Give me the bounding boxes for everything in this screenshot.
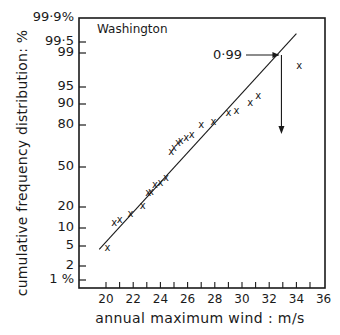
svg-text:x: x	[210, 116, 216, 127]
x-tick-label: 30	[230, 292, 254, 306]
x-tick-label: 20	[94, 292, 118, 306]
annotation-arrows	[246, 52, 284, 134]
y-tick-label: 95	[24, 78, 74, 93]
x-tick-label: 22	[121, 292, 145, 306]
x-tick-label: 28	[203, 292, 227, 306]
svg-text:x: x	[247, 97, 253, 108]
svg-text:x: x	[117, 214, 123, 225]
y-tick-label: 5	[24, 237, 74, 252]
y-axis-title: cumulative frequency distribution: %	[2, 0, 22, 335]
x-axis-title: annual maximum wind : m/s	[80, 310, 320, 326]
svg-text:x: x	[104, 242, 110, 253]
annotation-label: 0·99	[213, 47, 242, 62]
svg-text:x: x	[296, 60, 302, 71]
svg-text:x: x	[189, 129, 195, 140]
x-tick-label: 32	[257, 292, 281, 306]
x-tick-label: 34	[284, 292, 308, 306]
y-tick-label: 99	[24, 44, 74, 59]
data-points: xxxxxxxxxxxxxxxxxxxxxxx	[104, 60, 302, 253]
svg-text:x: x	[198, 119, 204, 130]
y-tick-label: 10	[24, 219, 74, 234]
y-tick-label: 2	[24, 257, 74, 272]
y-tick-label: 1 %	[24, 271, 74, 286]
station-label: Washington	[97, 22, 168, 36]
y-tick-label: 80	[24, 116, 74, 131]
plot-frame	[79, 18, 325, 288]
y-tick-label: 90	[24, 95, 74, 110]
y-tick-label: 20	[24, 198, 74, 213]
svg-text:x: x	[128, 208, 134, 219]
svg-text:x: x	[255, 90, 261, 101]
x-tick-label: 24	[148, 292, 172, 306]
y-tick-label: 50	[24, 158, 74, 173]
x-tick-label: 36	[312, 292, 336, 306]
svg-text:x: x	[163, 172, 169, 183]
y-tick-label: 99·9%	[24, 9, 74, 24]
svg-text:x: x	[225, 107, 231, 118]
x-tick-label: 26	[176, 292, 200, 306]
svg-text:x: x	[234, 105, 240, 116]
svg-text:x: x	[140, 200, 146, 211]
